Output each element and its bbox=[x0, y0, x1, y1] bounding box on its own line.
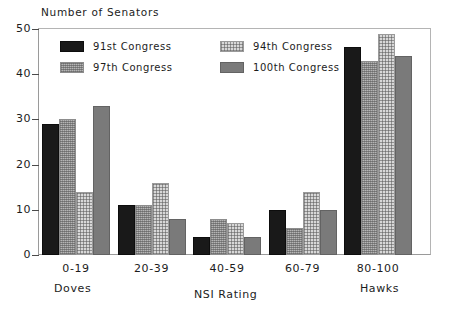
x-axis-group-label: 60-79 bbox=[263, 262, 343, 275]
x-axis-group-label: 20-39 bbox=[112, 262, 192, 275]
bar bbox=[93, 106, 110, 255]
y-axis-tick-label: 0 bbox=[1, 248, 31, 261]
bar bbox=[76, 192, 93, 255]
bar bbox=[303, 192, 320, 255]
x-axis-group-label: 40-59 bbox=[187, 262, 267, 275]
y-axis-tick-label: 30 bbox=[1, 112, 31, 125]
legend-swatch-icon bbox=[60, 62, 84, 73]
y-axis-tick bbox=[32, 74, 39, 75]
x-axis-group-label: 0-19 bbox=[36, 262, 116, 275]
bar bbox=[269, 210, 286, 255]
y-axis-tick-label: 40 bbox=[1, 67, 31, 80]
x-axis-group-label: 80-100 bbox=[338, 262, 418, 275]
y-axis-tick bbox=[32, 165, 39, 166]
bar bbox=[227, 223, 244, 255]
y-axis-tick bbox=[32, 255, 39, 256]
bar bbox=[244, 237, 261, 255]
y-axis-tick-label: 10 bbox=[1, 203, 31, 216]
y-axis-title: Number of Senators bbox=[41, 6, 159, 18]
y-axis-tick-label: 20 bbox=[1, 158, 31, 171]
bar bbox=[378, 34, 395, 255]
legend-swatch-icon bbox=[220, 62, 244, 73]
bar bbox=[42, 124, 59, 255]
legend-swatch-icon bbox=[60, 41, 84, 52]
legend-swatch-icon bbox=[220, 41, 244, 52]
x-axis-title: NSI Rating bbox=[194, 288, 257, 301]
legend-label: 91st Congress bbox=[93, 41, 171, 52]
legend-entry: 94th Congress bbox=[220, 41, 333, 52]
legend-label: 97th Congress bbox=[93, 62, 173, 73]
y-axis-tick bbox=[32, 210, 39, 211]
y-axis-tick bbox=[32, 29, 39, 30]
x-axis-label-doves: Doves bbox=[54, 282, 91, 295]
chart-legend: 91st Congress94th Congress97th Congress1… bbox=[60, 41, 370, 79]
bar bbox=[59, 119, 76, 255]
legend-entry: 91st Congress bbox=[60, 41, 171, 52]
x-axis-label-hawks: Hawks bbox=[360, 282, 399, 295]
bar-chart: Number of Senators 01020304050 0-1920-39… bbox=[0, 0, 450, 321]
y-axis-tick-label: 50 bbox=[1, 22, 31, 35]
legend-entry: 100th Congress bbox=[220, 62, 339, 73]
bar bbox=[152, 183, 169, 255]
legend-label: 94th Congress bbox=[253, 41, 333, 52]
bar bbox=[118, 205, 135, 255]
bar bbox=[135, 205, 152, 255]
bar bbox=[361, 61, 378, 255]
bar bbox=[169, 219, 186, 255]
legend-label: 100th Congress bbox=[253, 62, 339, 73]
y-axis-tick bbox=[32, 119, 39, 120]
legend-entry: 97th Congress bbox=[60, 62, 173, 73]
bar bbox=[320, 210, 337, 255]
bar bbox=[193, 237, 210, 255]
bar bbox=[210, 219, 227, 255]
bar bbox=[395, 56, 412, 255]
bar bbox=[286, 228, 303, 255]
